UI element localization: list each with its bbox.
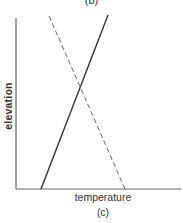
- y-axis-label: elevation: [2, 76, 14, 136]
- chart-plot-area: [0, 0, 183, 223]
- dashed-line-series: [49, 16, 125, 189]
- x-axis-label: temperature: [60, 191, 146, 203]
- solid-line-series: [41, 15, 108, 189]
- panel-label: (c): [83, 206, 123, 218]
